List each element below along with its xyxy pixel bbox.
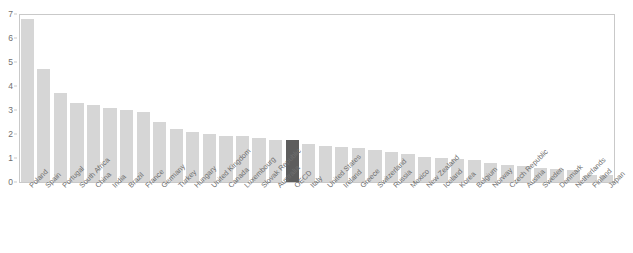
y-axis-tick-label: 1 bbox=[8, 154, 13, 163]
y-axis-tick-label: 2 bbox=[8, 130, 13, 139]
y-axis-tick-mark bbox=[14, 86, 17, 87]
y-axis-tick-mark bbox=[14, 134, 17, 135]
y-axis-tick-label: 7 bbox=[8, 10, 13, 19]
bar bbox=[37, 69, 50, 182]
y-axis-tick-label: 4 bbox=[8, 82, 13, 91]
y-axis-tick-label: 3 bbox=[8, 106, 13, 115]
bar-chart: 01234567 PolandSpainPortugalSouth Africa… bbox=[0, 0, 633, 253]
y-axis-tick-mark bbox=[14, 158, 17, 159]
y-axis-tick-mark bbox=[14, 14, 17, 15]
bar bbox=[120, 110, 133, 182]
y-axis-tick-mark bbox=[14, 110, 17, 111]
y-axis-tick-mark bbox=[14, 182, 17, 183]
y-axis-tick-label: 0 bbox=[8, 178, 13, 187]
bar bbox=[21, 19, 34, 182]
y-axis-tick-mark bbox=[14, 38, 17, 39]
bar bbox=[54, 93, 67, 182]
y-axis-tick-label: 6 bbox=[8, 34, 13, 43]
y-axis-tick-mark bbox=[14, 62, 17, 63]
y-axis: 01234567 bbox=[0, 14, 17, 183]
y-axis-tick-label: 5 bbox=[8, 58, 13, 67]
bars-layer bbox=[19, 14, 615, 182]
x-axis-labels: PolandSpainPortugalSouth AfricaChinaIndi… bbox=[19, 184, 615, 253]
